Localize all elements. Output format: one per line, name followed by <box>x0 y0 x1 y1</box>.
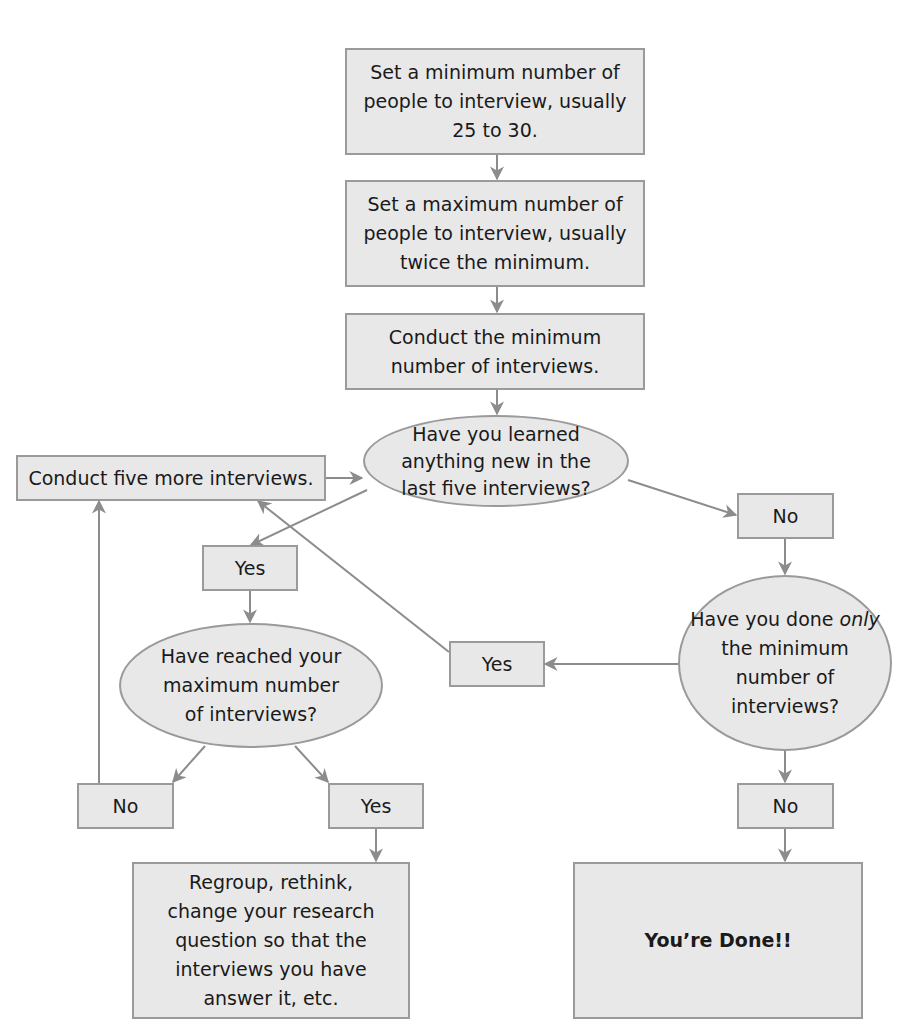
only-min-text-before: Have you done <box>690 608 839 630</box>
label-no-learned: No <box>737 493 834 539</box>
decision-reached-maximum-text: Have reached your maximum number of inte… <box>155 642 347 729</box>
label-yes-reached-maximum: Yes <box>328 783 424 829</box>
node-regroup-text: Regroup, rethink, change your research q… <box>152 868 390 1013</box>
edge-reachedmax-yes3 <box>295 746 328 782</box>
decision-learned-new-text: Have you learned anything new in the las… <box>395 421 597 502</box>
node-done: You’re Done!! <box>573 862 863 1019</box>
label-yes-only-minimum: Yes <box>449 641 545 687</box>
node-set-minimum: Set a minimum number of people to interv… <box>345 48 645 155</box>
only-min-text-emphasis: only <box>840 608 880 630</box>
label-no-learned-text: No <box>773 502 799 531</box>
node-conduct-minimum: Conduct the minimum number of interviews… <box>345 313 645 390</box>
label-no-only-minimum: No <box>737 783 834 829</box>
only-min-text-after: the minimum number of interviews? <box>721 637 848 717</box>
label-no-reached-maximum: No <box>77 783 174 829</box>
label-yes-learned-text: Yes <box>235 554 266 583</box>
node-regroup: Regroup, rethink, change your research q… <box>132 862 410 1019</box>
node-done-text: You’re Done!! <box>644 926 791 955</box>
node-set-maximum: Set a maximum number of people to interv… <box>345 180 645 287</box>
node-conduct-five-more: Conduct five more interviews. <box>16 455 326 501</box>
decision-only-minimum: Have you done only the minimum number of… <box>678 575 892 751</box>
label-no-only-minimum-text: No <box>773 792 799 821</box>
edge-reachedmax-no2 <box>173 746 205 782</box>
decision-only-minimum-text: Have you done only the minimum number of… <box>690 605 880 721</box>
node-set-minimum-text: Set a minimum number of people to interv… <box>357 58 633 145</box>
label-no-reached-maximum-text: No <box>113 792 139 821</box>
node-conduct-minimum-text: Conduct the minimum number of interviews… <box>377 323 613 381</box>
edge-learned-no1 <box>628 480 736 515</box>
label-yes-learned: Yes <box>202 545 298 591</box>
label-yes-only-minimum-text: Yes <box>482 650 513 679</box>
node-set-maximum-text: Set a maximum number of people to interv… <box>355 190 635 277</box>
decision-learned-new: Have you learned anything new in the las… <box>363 415 629 507</box>
label-yes-reached-maximum-text: Yes <box>361 792 392 821</box>
decision-reached-maximum: Have reached your maximum number of inte… <box>119 623 383 748</box>
node-conduct-five-more-text: Conduct five more interviews. <box>28 464 313 493</box>
